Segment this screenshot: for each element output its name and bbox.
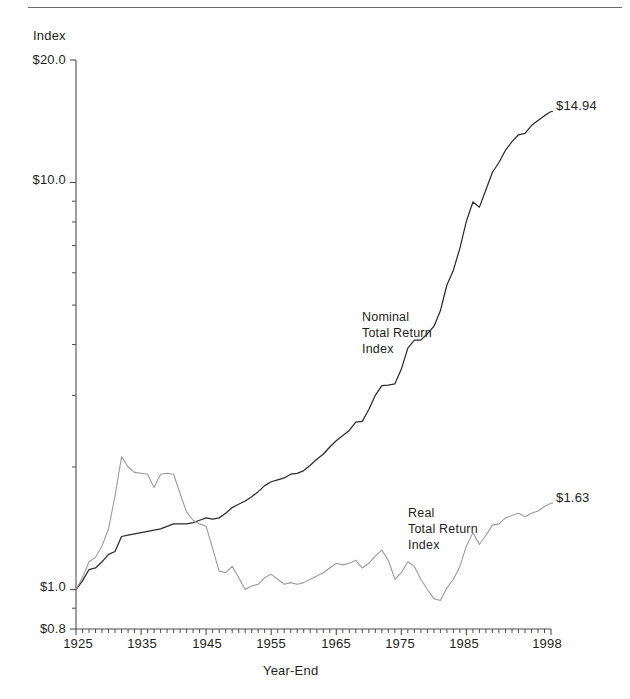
x-axis-ticks [76,629,551,635]
series-line-nominal [76,112,551,590]
chart-figure: Index $20.0 $10.0 $1.0 $0.8 1925 1935 19… [0,0,630,699]
series-line-real [76,457,551,601]
y-axis-ticks [70,60,76,629]
plot-canvas [0,0,630,699]
